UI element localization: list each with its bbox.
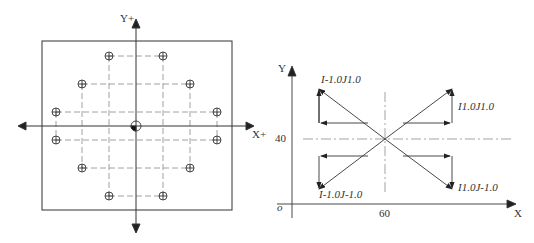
- right-x-axis-label: X: [514, 207, 522, 219]
- origin-label: o: [277, 201, 283, 213]
- right-arc-diagram: [277, 66, 516, 218]
- label-bottom-left: I-1.0J-1.0: [319, 188, 362, 200]
- label-top-left: I-1.0J1.0: [321, 73, 361, 85]
- left-x-axis-label: X+: [252, 128, 266, 140]
- left-workpiece: [18, 19, 254, 233]
- label-top-right: I1.0J1.0: [458, 100, 494, 112]
- y-tick-40: 40: [275, 132, 286, 144]
- right-y-axis-label: Y: [278, 62, 286, 74]
- x-tick-60: 60: [379, 207, 390, 219]
- diagram-canvas: [0, 0, 534, 243]
- left-y-axis-label: Y+: [120, 12, 134, 24]
- label-bottom-right: I1.0J-1.0: [458, 181, 498, 193]
